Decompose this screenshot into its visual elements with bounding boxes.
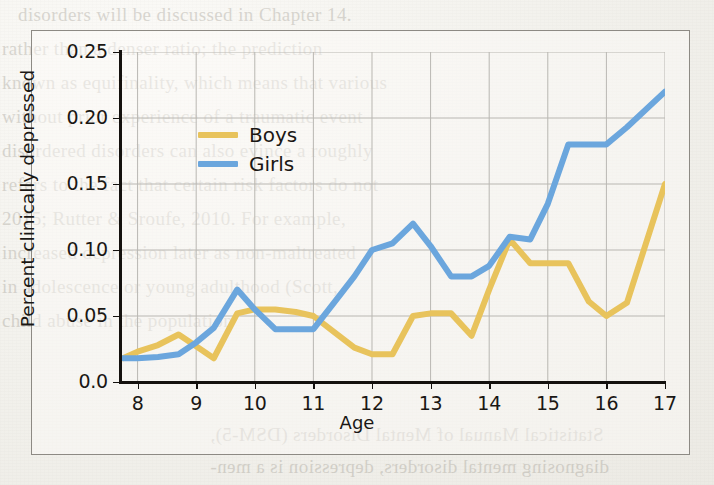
x-tick-mark: [372, 382, 373, 389]
x-tick-label: 16: [582, 392, 630, 414]
legend-swatch-girls: [198, 161, 238, 167]
x-tick-label: 15: [524, 392, 572, 414]
y-axis-title: Percent clinically depressed: [17, 44, 38, 354]
legend-item-girls: Girls: [198, 154, 297, 174]
x-tick-label: 14: [465, 392, 513, 414]
chart-plot-area: [120, 52, 665, 382]
x-tick-mark: [313, 382, 314, 389]
y-tick-mark: [113, 316, 120, 317]
chart-legend: Boys Girls: [198, 125, 297, 174]
x-tick-mark: [431, 382, 432, 389]
legend-label-girls: Girls: [249, 154, 294, 174]
legend-swatch-boys: [198, 132, 238, 138]
x-tick-label: 10: [231, 392, 279, 414]
y-tick-label: 0.0: [16, 370, 108, 392]
x-tick-mark: [665, 382, 666, 389]
x-axis-line: [119, 381, 666, 384]
x-tick-label: 11: [289, 392, 337, 414]
x-tick-mark: [606, 382, 607, 389]
y-tick-mark: [113, 118, 120, 119]
y-tick-mark: [113, 382, 120, 383]
x-axis-title: Age: [0, 412, 714, 433]
x-tick-label: 8: [114, 392, 162, 414]
y-axis-line: [119, 50, 122, 384]
chart-series-layer: [120, 52, 665, 382]
x-tick-mark: [255, 382, 256, 389]
legend-item-boys: Boys: [198, 125, 297, 145]
legend-label-boys: Boys: [249, 125, 297, 145]
y-tick-mark: [113, 52, 120, 53]
x-tick-label: 17: [641, 392, 689, 414]
x-tick-mark: [138, 382, 139, 389]
x-tick-label: 12: [348, 392, 396, 414]
x-tick-mark: [548, 382, 549, 389]
y-tick-mark: [113, 250, 120, 251]
y-tick-mark: [113, 184, 120, 185]
x-tick-mark: [196, 382, 197, 389]
x-tick-label: 13: [407, 392, 455, 414]
x-tick-label: 9: [172, 392, 220, 414]
x-tick-mark: [489, 382, 490, 389]
